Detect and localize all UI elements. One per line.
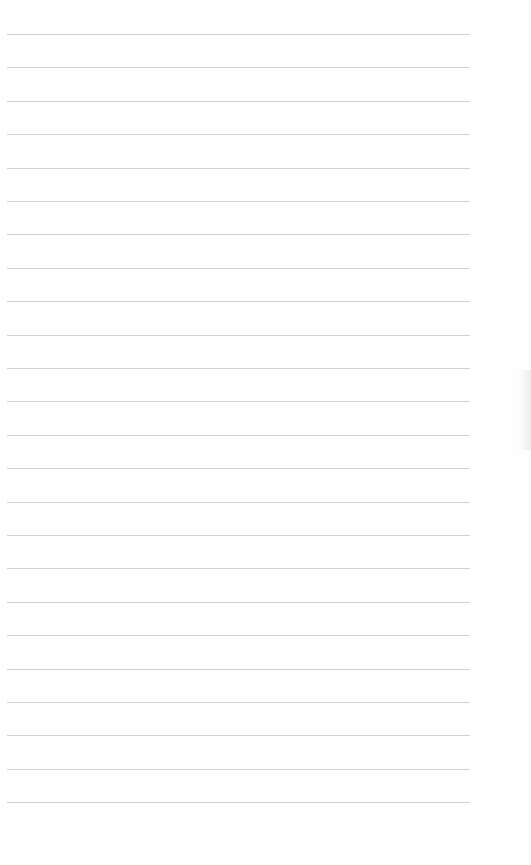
ruled-line: [7, 769, 470, 770]
ruled-page: [0, 0, 531, 865]
ruled-line: [7, 468, 470, 469]
ruled-line: [7, 67, 470, 68]
ruled-line: [7, 602, 470, 603]
ruled-line: [7, 301, 470, 302]
ruled-line: [7, 168, 470, 169]
ruled-line: [7, 201, 470, 202]
ruled-line: [7, 669, 470, 670]
ruled-line: [7, 635, 470, 636]
scan-edge-shadow: [518, 370, 531, 450]
ruled-line: [7, 568, 470, 569]
ruled-line: [7, 435, 470, 436]
ruled-line: [7, 268, 470, 269]
ruled-line: [7, 535, 470, 536]
ruled-line: [7, 101, 470, 102]
ruled-line: [7, 401, 470, 402]
ruled-line: [7, 735, 470, 736]
ruled-line: [7, 34, 470, 35]
ruled-line: [7, 702, 470, 703]
ruled-line: [7, 134, 470, 135]
ruled-line: [7, 502, 470, 503]
ruled-line: [7, 335, 470, 336]
ruled-line: [7, 234, 470, 235]
ruled-line: [7, 802, 470, 803]
ruled-line: [7, 368, 470, 369]
